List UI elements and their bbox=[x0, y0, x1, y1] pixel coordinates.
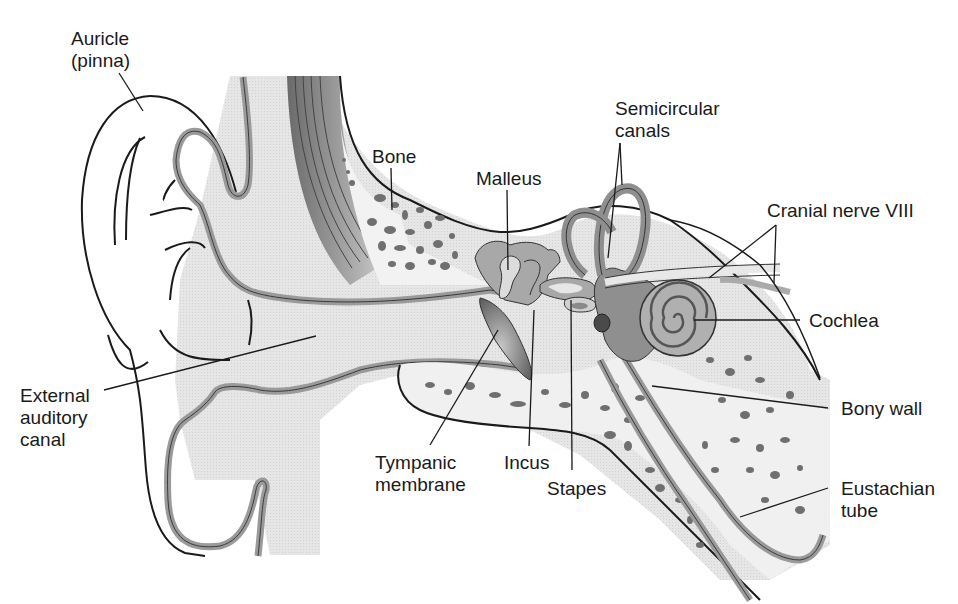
label-cochlea: Cochlea bbox=[809, 310, 879, 332]
ear-illustration bbox=[0, 0, 958, 604]
label-cranial-nerve: Cranial nerve VIII bbox=[767, 200, 914, 222]
label-eustachian-line1: Eustachian bbox=[841, 478, 935, 500]
label-tympanic-membrane: Tympanic membrane bbox=[375, 452, 466, 496]
ear-anatomy-diagram: Auricle (pinna) Bone Malleus Semicircula… bbox=[0, 0, 958, 604]
label-cochlea-line1: Cochlea bbox=[809, 310, 879, 332]
label-incus: Incus bbox=[504, 452, 549, 474]
label-auricle-line1: Auricle bbox=[71, 28, 130, 50]
label-auricle: Auricle (pinna) bbox=[71, 28, 130, 72]
label-external-canal-line3: canal bbox=[20, 429, 90, 451]
label-tympanic-line2: membrane bbox=[375, 474, 466, 496]
label-stapes: Stapes bbox=[547, 478, 606, 500]
label-malleus-line1: Malleus bbox=[476, 168, 541, 190]
label-external-auditory-canal: External auditory canal bbox=[20, 385, 90, 451]
label-bony-wall-line1: Bony wall bbox=[841, 398, 922, 420]
cochlea-shape bbox=[640, 280, 716, 356]
label-semicircular-line2: canals bbox=[615, 120, 720, 142]
label-cranial-nerve-line1: Cranial nerve VIII bbox=[767, 200, 914, 222]
label-tympanic-line1: Tympanic bbox=[375, 452, 466, 474]
label-semicircular-canals: Semicircular canals bbox=[615, 98, 720, 142]
label-incus-line1: Incus bbox=[504, 452, 549, 474]
label-eustachian-line2: tube bbox=[841, 500, 935, 522]
label-malleus: Malleus bbox=[476, 168, 541, 190]
label-semicircular-line1: Semicircular bbox=[615, 98, 720, 120]
label-bone: Bone bbox=[372, 146, 416, 168]
label-external-canal-line1: External bbox=[20, 385, 90, 407]
label-auricle-line2: (pinna) bbox=[71, 50, 130, 72]
label-stapes-line1: Stapes bbox=[547, 478, 606, 500]
label-bony-wall: Bony wall bbox=[841, 398, 922, 420]
label-eustachian-tube: Eustachian tube bbox=[841, 478, 935, 522]
label-bone-line1: Bone bbox=[372, 146, 416, 168]
label-external-canal-line2: auditory bbox=[20, 407, 90, 429]
